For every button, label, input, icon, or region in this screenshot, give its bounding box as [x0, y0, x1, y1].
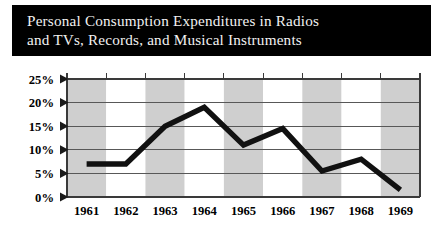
background-band — [302, 79, 341, 197]
x-axis-tick-label: 1964 — [192, 204, 218, 218]
x-axis-tick-label: 1961 — [74, 204, 99, 218]
y-axis-tick-label: 5% — [35, 167, 54, 181]
x-axis-tick-label: 1962 — [113, 204, 138, 218]
x-axis-tick-label: 1969 — [388, 204, 413, 218]
x-axis-tick-label: 1963 — [152, 204, 177, 218]
background-band — [263, 79, 302, 197]
y-axis-labels: 0%5%10%15%20%25% — [29, 73, 54, 205]
x-axis-tickmarks — [67, 73, 420, 79]
y-axis-tick-label: 15% — [29, 120, 54, 134]
background-bands — [67, 79, 420, 197]
x-axis-tick-label: 1965 — [231, 204, 256, 218]
y-axis-tick-label: 0% — [35, 191, 54, 205]
chart-svg: 0%5%10%15%20%25% 19611962196319641965196… — [0, 56, 446, 238]
chart-figure: Personal Consumption Expenditures in Rad… — [0, 0, 446, 238]
x-axis-labels: 196119621963196419651966196719681969 — [74, 204, 413, 218]
x-axis-tick-label: 1966 — [270, 204, 295, 218]
background-band — [185, 79, 224, 197]
background-band — [67, 79, 106, 197]
chart-title: Personal Consumption Expenditures in Rad… — [27, 11, 431, 49]
x-axis-tick-label: 1967 — [309, 204, 334, 218]
chart-plot-area: 0%5%10%15%20%25% 19611962196319641965196… — [0, 56, 446, 238]
y-axis-tick-label: 20% — [29, 96, 54, 110]
chart-title-banner: Personal Consumption Expenditures in Rad… — [12, 5, 431, 56]
x-axis-tick-label: 1968 — [349, 204, 374, 218]
background-band — [106, 79, 145, 197]
y-axis-tick-label: 10% — [29, 143, 54, 157]
background-band — [342, 79, 381, 197]
y-axis-tick-label: 25% — [29, 73, 54, 87]
